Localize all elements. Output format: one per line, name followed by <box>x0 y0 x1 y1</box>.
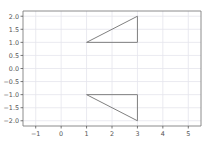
chart-figure: −1012345−2.0−1.5−1.0−0.50.00.51.01.52.0 <box>0 0 208 146</box>
y-tick-label: −2.0 <box>3 117 19 125</box>
y-tick-label: −1.5 <box>3 104 19 112</box>
x-tick-label: 4 <box>161 130 165 138</box>
x-tick-label: 5 <box>186 130 190 138</box>
y-tick-label: −0.5 <box>3 78 19 86</box>
x-tick-label: 2 <box>110 130 114 138</box>
x-tick-label: 1 <box>85 130 89 138</box>
y-tick-label: 0.5 <box>9 52 19 60</box>
plot-canvas: −1012345−2.0−1.5−1.0−0.50.00.51.01.52.0 <box>0 0 208 146</box>
x-tick-label: −1 <box>31 130 40 138</box>
x-tick-label: 3 <box>135 130 139 138</box>
y-tick-label: 0.0 <box>9 65 19 73</box>
y-tick-label: 1.5 <box>9 26 19 34</box>
x-tick-label: 0 <box>59 130 63 138</box>
y-tick-label: 2.0 <box>9 13 19 21</box>
y-tick-label: −1.0 <box>3 91 19 99</box>
y-tick-label: 1.0 <box>9 39 19 47</box>
